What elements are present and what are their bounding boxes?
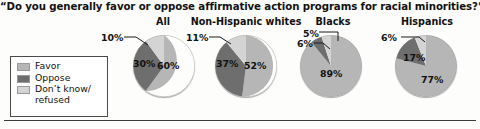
leader-line-all-dont-know <box>124 36 150 46</box>
bottom-divider <box>4 120 476 121</box>
slice-label-hispanics-oppose: 17% <box>403 52 425 63</box>
callout-label-all-dont-know: 10% <box>101 32 123 43</box>
group-header-non-hispanic-whites: Non-Hispanic whites <box>187 16 305 27</box>
callout-label-hispanics-dont-know: 6% <box>381 32 397 43</box>
legend-label-dont-know: Don’t know/ refused <box>35 84 107 105</box>
legend-label-oppose: Oppose <box>35 73 70 84</box>
slice-label-blacks-favor: 89% <box>320 68 342 79</box>
slice-label-non-hispanic-whites-favor: 52% <box>244 60 266 71</box>
legend: Favor Oppose Don’t know/ refused <box>10 56 108 117</box>
leader-line-non-hispanic-whites-dont-know <box>209 36 233 46</box>
legend-swatch-favor <box>17 63 30 71</box>
legend-item-dont-know: Don’t know/ refused <box>17 84 107 105</box>
group-header-blacks: Blacks <box>305 16 361 27</box>
group-header-hispanics: Hispanics <box>390 16 464 27</box>
slice-label-all-favor: 60% <box>157 60 179 71</box>
chart-title: “Do you generally favor or oppose affirm… <box>0 1 480 12</box>
leader-line-blacks-oppose <box>314 42 332 52</box>
group-header-all: All <box>143 16 183 27</box>
legend-swatch-dont-know <box>17 86 30 94</box>
callout-label-non-hispanic-whites-dont-know: 11% <box>186 32 208 43</box>
slice-label-hispanics-favor: 77% <box>421 74 443 85</box>
legend-label-favor: Favor <box>35 61 60 72</box>
slice-label-all-oppose: 30% <box>133 58 155 69</box>
leader-line-hispanics-dont-know <box>401 36 427 46</box>
legend-swatch-oppose <box>17 75 30 83</box>
callout-label-blacks-oppose: 6% <box>297 38 313 49</box>
legend-item-oppose: Oppose <box>17 73 107 84</box>
slice-label-non-hispanic-whites-oppose: 37% <box>216 58 238 69</box>
legend-item-favor: Favor <box>17 61 107 72</box>
